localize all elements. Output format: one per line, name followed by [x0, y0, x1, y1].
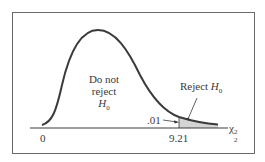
x-axis-label: χ22 — [229, 122, 240, 134]
reject-h-subscript: 0 — [219, 87, 223, 95]
label-h0: H0 — [84, 97, 124, 114]
label-reject: reject — [84, 85, 124, 97]
chi-subscript: 2 — [234, 134, 238, 146]
tick-label-zero: 0 — [40, 132, 46, 144]
label-do-not: Do not — [84, 73, 124, 85]
acceptance-region-label: Do not reject H0 — [84, 73, 124, 114]
tick-label-critical: 9.21 — [169, 132, 188, 144]
alpha-arrowhead — [174, 120, 179, 123]
h-subscript: 0 — [106, 104, 110, 112]
rejection-region-label: Reject H0 — [180, 80, 222, 97]
reject-text: Reject — [180, 80, 211, 92]
reject-h-symbol: H — [211, 80, 219, 92]
alpha-label: .01 — [147, 114, 161, 126]
reject-pointer-dot — [187, 118, 189, 120]
reject-pointer — [188, 98, 197, 119]
